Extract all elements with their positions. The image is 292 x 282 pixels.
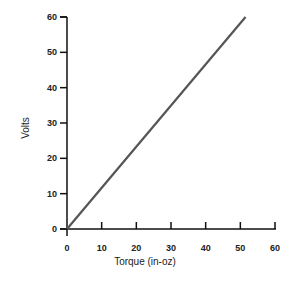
x-tick-label: 30 xyxy=(166,243,176,253)
y-axis-title: Volts xyxy=(20,117,31,139)
y-tick-label: 20 xyxy=(47,153,57,163)
y-tick-label: 60 xyxy=(47,12,57,22)
x-axis-title: Torque (in-oz) xyxy=(114,256,176,267)
y-tick-label: 50 xyxy=(47,47,57,57)
x-tick-label: 0 xyxy=(64,243,69,253)
x-ticks: 0102030405060 xyxy=(64,222,280,253)
y-tick-label: 0 xyxy=(52,224,57,234)
y-tick-label: 10 xyxy=(47,189,57,199)
x-tick-label: 60 xyxy=(270,243,280,253)
x-tick-label: 50 xyxy=(235,243,245,253)
x-tick-label: 40 xyxy=(201,243,211,253)
y-ticks: 0102030405060 xyxy=(47,12,67,234)
y-tick-label: 30 xyxy=(47,118,57,128)
data-line xyxy=(67,17,246,229)
x-tick-label: 10 xyxy=(97,243,107,253)
chart: 0102030405060 0102030405060 Torque (in-o… xyxy=(0,0,292,282)
y-tick-label: 40 xyxy=(47,83,57,93)
x-tick-label: 20 xyxy=(131,243,141,253)
